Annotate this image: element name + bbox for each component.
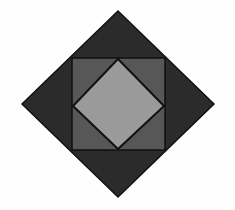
nested-squares-diagram <box>0 0 235 210</box>
diagram-svg <box>0 0 235 210</box>
